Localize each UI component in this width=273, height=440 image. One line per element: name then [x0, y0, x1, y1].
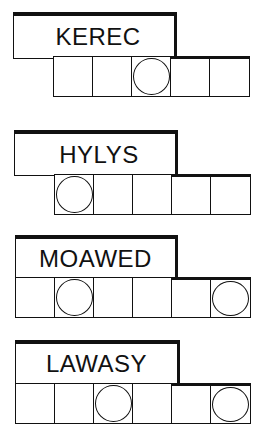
- answer-cell[interactable]: [132, 383, 173, 424]
- circle-marker-icon: [212, 387, 249, 422]
- circle-marker-icon: [212, 281, 249, 316]
- circle-marker-icon: [56, 279, 93, 316]
- answer-cell[interactable]: [15, 383, 56, 424]
- answer-cell-circled[interactable]: [210, 277, 251, 318]
- answer-cell[interactable]: [170, 56, 211, 97]
- answer-cell-circled[interactable]: [131, 56, 172, 97]
- answer-cell[interactable]: [53, 56, 94, 97]
- answer-cells: [15, 277, 251, 318]
- scrambled-word: HYLYS: [51, 141, 138, 169]
- answer-cell[interactable]: [93, 277, 134, 318]
- answer-cell[interactable]: [171, 383, 212, 424]
- answer-cell[interactable]: [209, 56, 250, 97]
- answer-cell[interactable]: [93, 174, 134, 215]
- answer-cells: [53, 56, 250, 97]
- circle-marker-icon: [133, 58, 170, 95]
- scrambled-word-box: HYLYS: [14, 130, 178, 176]
- answer-cell-circled[interactable]: [210, 383, 251, 424]
- answer-cell[interactable]: [92, 56, 133, 97]
- answer-cells: [54, 174, 251, 215]
- answer-cell-circled[interactable]: [54, 174, 95, 215]
- scrambled-word: LAWASY: [46, 350, 147, 378]
- answer-cell[interactable]: [171, 174, 212, 215]
- answer-cell[interactable]: [15, 277, 56, 318]
- answer-cell[interactable]: [132, 277, 173, 318]
- scrambled-word: MOAWED: [39, 245, 152, 273]
- answer-cell-circled[interactable]: [54, 277, 95, 318]
- circle-marker-icon: [56, 176, 93, 213]
- answer-cells: [15, 383, 251, 424]
- answer-cell-circled[interactable]: [93, 383, 134, 424]
- answer-cell[interactable]: [171, 277, 212, 318]
- scrambled-word-box: LAWASY: [15, 340, 180, 385]
- scrambled-word: KEREC: [47, 23, 140, 51]
- scrambled-word-box: KEREC: [13, 12, 177, 59]
- answer-cell[interactable]: [132, 174, 173, 215]
- answer-cell[interactable]: [54, 383, 95, 424]
- answer-cell[interactable]: [210, 174, 251, 215]
- circle-marker-icon: [95, 385, 132, 422]
- scrambled-word-box: MOAWED: [15, 235, 178, 279]
